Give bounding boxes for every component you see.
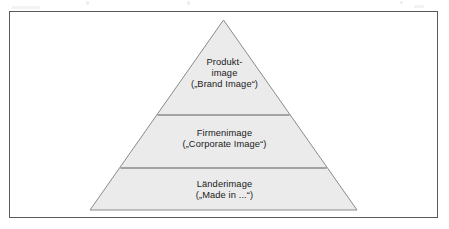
tier-bottom-term: Länderimage	[0, 179, 449, 190]
pyramid-diagram: Produkt- image („Brand Image“) Firmenima…	[0, 0, 449, 229]
tier-top-translation: („Brand Image“)	[0, 79, 449, 90]
tier-bottom-translation: („Made in ...“)	[0, 190, 449, 201]
tier-top-term-line1: Produkt-	[0, 57, 449, 68]
tier-label-top: Produkt- image („Brand Image“)	[0, 57, 449, 91]
tier-middle-term: Firmenimage	[0, 128, 449, 139]
figure-root: Produkt- image („Brand Image“) Firmenima…	[0, 0, 449, 229]
tier-top-term-line2: image	[0, 68, 449, 79]
tier-label-bottom: Länderimage („Made in ...“)	[0, 179, 449, 201]
tier-label-middle: Firmenimage („Corporate Image“)	[0, 128, 449, 150]
tier-middle-translation: („Corporate Image“)	[0, 139, 449, 150]
